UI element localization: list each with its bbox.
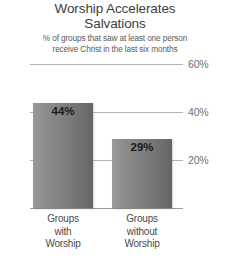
x-axis-label-1-line-2: with <box>25 226 101 239</box>
chart-container: Worship Accelerates Salvations % of grou… <box>0 0 230 271</box>
bar-groups-with-worship <box>33 103 93 208</box>
gridline-60 <box>30 64 183 65</box>
bar-value-groups-without-worship: 29% <box>112 141 172 153</box>
x-axis-label-groups-without-worship: Groups without Worship <box>104 213 180 251</box>
bar-value-groups-with-worship: 44% <box>33 105 93 117</box>
plot-area: 60% 40% 20% 44% 29% Groups with Worship … <box>0 0 230 271</box>
y-axis-label-40: 40% <box>188 106 208 118</box>
x-axis-label-1-line-1: Groups <box>25 213 101 226</box>
x-axis-label-2-line-2: without <box>104 226 180 239</box>
y-axis-label-20: 20% <box>188 154 208 166</box>
x-axis-label-2-line-3: Worship <box>104 238 180 251</box>
x-axis-label-1-line-3: Worship <box>25 238 101 251</box>
x-axis-label-2-line-1: Groups <box>104 213 180 226</box>
y-axis-label-60: 60% <box>188 58 208 70</box>
x-axis-label-groups-with-worship: Groups with Worship <box>25 213 101 251</box>
axis-baseline <box>30 208 183 209</box>
